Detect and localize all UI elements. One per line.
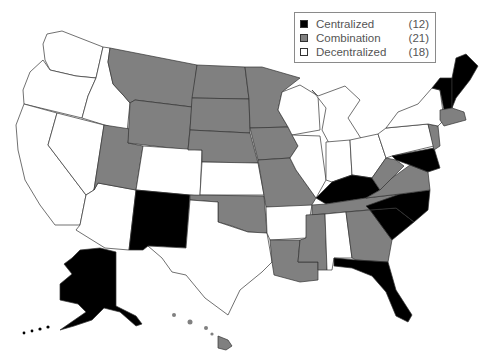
legend-count: (21) bbox=[401, 31, 429, 45]
legend-count: (12) bbox=[401, 17, 429, 31]
state-arkansas bbox=[266, 205, 312, 240]
hawaii-island bbox=[172, 313, 176, 317]
aleutian-islands bbox=[23, 332, 26, 335]
legend-item-centralized: Centralized (12) bbox=[300, 17, 429, 31]
state-new-york bbox=[386, 88, 444, 128]
hawaii-island bbox=[204, 326, 208, 330]
state-indiana bbox=[326, 140, 352, 182]
legend-item-combination: Combination (21) bbox=[300, 31, 429, 45]
aleutian-islands bbox=[31, 330, 34, 333]
state-new-mexico bbox=[129, 190, 190, 250]
swatch-centralized bbox=[300, 20, 308, 28]
legend-label: Combination bbox=[316, 31, 401, 45]
hawaii-island bbox=[210, 332, 213, 335]
aleutian-islands bbox=[38, 327, 41, 330]
state-massachusetts-ct-ri bbox=[440, 108, 466, 126]
state-hawaii bbox=[218, 336, 232, 350]
legend-label: Decentralized bbox=[316, 45, 401, 59]
state-wyoming bbox=[128, 100, 192, 150]
swatch-decentralized bbox=[300, 48, 308, 56]
legend-label: Centralized bbox=[316, 17, 401, 31]
state-north-dakota bbox=[192, 65, 249, 99]
state-kansas bbox=[200, 162, 264, 195]
hawaii-island bbox=[188, 320, 193, 325]
state-maine bbox=[452, 54, 478, 108]
state-alaska bbox=[60, 248, 142, 330]
map-legend: Centralized (12) Combination (21) Decent… bbox=[294, 12, 436, 63]
state-colorado bbox=[136, 146, 202, 196]
legend-item-decentralized: Decentralized (18) bbox=[300, 45, 429, 59]
state-south-dakota bbox=[190, 98, 250, 133]
legend-count: (18) bbox=[401, 45, 429, 59]
swatch-combination bbox=[300, 34, 308, 42]
aleutian-islands bbox=[46, 325, 49, 328]
state-florida bbox=[334, 258, 412, 322]
